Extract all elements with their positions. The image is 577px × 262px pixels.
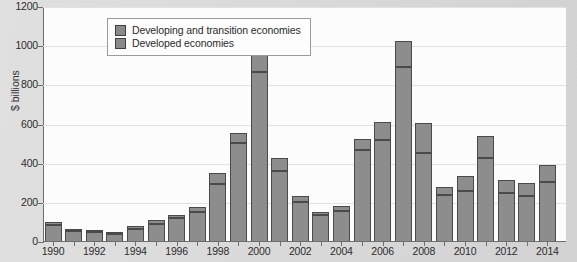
- x-tick-label: 1990: [33, 245, 73, 257]
- bar-segment-developing: [148, 220, 165, 224]
- bar-segment-developed: [251, 72, 268, 241]
- x-axis-line: [43, 241, 566, 242]
- legend-label: Developed economies: [132, 37, 234, 49]
- bar-segment-developed: [457, 191, 474, 241]
- x-tick-label: 2010: [445, 245, 485, 257]
- bar-segment-developed: [518, 196, 535, 241]
- bar-segment-developing: [45, 222, 62, 225]
- bar-segment-developing: [292, 196, 309, 202]
- legend-swatch-developing-icon: [115, 25, 126, 36]
- bar-segment-developed: [374, 140, 391, 241]
- x-tick-label: 2002: [280, 245, 320, 257]
- bar-segment-developing: [106, 232, 123, 234]
- bar-segment-developing: [539, 165, 556, 183]
- bar-segment-developed: [498, 193, 515, 241]
- y-tick-label: 1200: [0, 0, 38, 12]
- bar-segment-developing: [209, 173, 226, 184]
- y-tick-label: 600: [0, 118, 38, 130]
- bar-segment-developed: [477, 158, 494, 241]
- x-tick-label: 1996: [157, 245, 197, 257]
- bar-segment-developed: [292, 202, 309, 241]
- x-tick-label: 2004: [321, 245, 361, 257]
- bar-segment-developing: [415, 123, 432, 153]
- bar-segment-developed: [189, 212, 206, 241]
- bar-segment-developing: [457, 176, 474, 191]
- bar-segment-developed: [106, 234, 123, 241]
- x-tick-label: 2000: [239, 245, 279, 257]
- x-tick-label: 1998: [198, 245, 238, 257]
- bar-segment-developing: [333, 206, 350, 211]
- x-tick-label: 2008: [404, 245, 444, 257]
- bar-segment-developed: [415, 153, 432, 241]
- bar-segment-developing: [477, 136, 494, 158]
- bar-segment-developed: [148, 224, 165, 241]
- bar-segment-developed: [539, 182, 556, 241]
- bar-segment-developing: [127, 226, 144, 229]
- bar-segment-developed: [168, 218, 185, 241]
- legend-item: Developing and transition economies: [115, 24, 301, 36]
- plot-area: $ billions 020040060080010001200 1990199…: [43, 7, 566, 242]
- chart-screenshot: $ billions 020040060080010001200 1990199…: [0, 0, 577, 262]
- bar-segment-developing: [354, 139, 371, 150]
- legend-swatch-developed-icon: [115, 38, 126, 49]
- bar-segment-developing: [230, 133, 247, 143]
- x-tick-label: 1994: [115, 245, 155, 257]
- bar-segment-developed: [230, 143, 247, 241]
- bar-segment-developing: [86, 230, 103, 232]
- bar-segment-developed: [436, 195, 453, 241]
- y-tick-label: 400: [0, 157, 38, 169]
- x-tick-label: 2006: [363, 245, 403, 257]
- bar-segment-developing: [436, 187, 453, 195]
- x-tick-label: 2012: [486, 245, 526, 257]
- bar-segment-developing: [312, 212, 329, 215]
- y-tick-label: 1000: [0, 39, 38, 51]
- legend-label: Developing and transition economies: [132, 24, 301, 36]
- bar-segment-developed: [395, 67, 412, 241]
- bar-segment-developing: [168, 215, 185, 219]
- y-tick-label: 800: [0, 78, 38, 90]
- bar-segment-developed: [45, 225, 62, 241]
- bar-segment-developing: [271, 158, 288, 171]
- bar-segment-developing: [374, 122, 391, 141]
- bar-segment-developed: [333, 211, 350, 241]
- y-tick: [38, 242, 43, 243]
- y-tick-label: 200: [0, 196, 38, 208]
- bar-segment-developing: [518, 183, 535, 196]
- bar-segment-developed: [312, 215, 329, 241]
- bar-segment-developed: [65, 231, 82, 241]
- chart-legend: Developing and transition economies Deve…: [107, 18, 311, 56]
- bar-segment-developed: [127, 229, 144, 241]
- legend-item: Developed economies: [115, 37, 301, 49]
- y-axis-title: $ billions: [9, 70, 21, 111]
- bar-segment-developed: [271, 171, 288, 242]
- bar-segment-developing: [189, 207, 206, 212]
- x-tick-label: 2014: [527, 245, 567, 257]
- bar-segment-developing: [395, 41, 412, 66]
- bar-segment-developing: [65, 229, 82, 231]
- x-tick-label: 1992: [74, 245, 114, 257]
- bar-segment-developed: [86, 232, 103, 241]
- bar-segment-developing: [498, 180, 515, 193]
- bar-segment-developed: [354, 150, 371, 241]
- bar-segment-developing: [251, 54, 268, 72]
- bar-segment-developed: [209, 184, 226, 241]
